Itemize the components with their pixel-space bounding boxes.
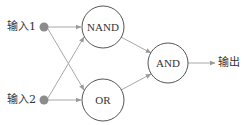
gate-and: AND bbox=[148, 43, 188, 83]
edges bbox=[48, 27, 215, 100]
edge-or-and bbox=[121, 74, 151, 90]
output-label: 输出 bbox=[218, 57, 240, 69]
edge-input2-nand bbox=[48, 37, 84, 98]
gate-or-label: OR bbox=[95, 94, 111, 106]
input2-label: 输入2 bbox=[7, 94, 36, 106]
diagram-canvas: NAND OR AND bbox=[0, 0, 250, 125]
input1-node bbox=[40, 23, 49, 32]
edge-nand-and bbox=[121, 37, 151, 53]
gate-and-label: AND bbox=[156, 57, 180, 69]
gate-or: OR bbox=[82, 79, 124, 121]
input2-node bbox=[40, 96, 49, 105]
gate-nand-label: NAND bbox=[87, 21, 119, 33]
input1-label: 输入1 bbox=[7, 21, 36, 33]
edge-input1-or bbox=[48, 29, 84, 90]
logic-diagram: NAND OR AND 输入1 输入2 输出 bbox=[0, 0, 250, 125]
gate-nand: NAND bbox=[82, 6, 124, 48]
